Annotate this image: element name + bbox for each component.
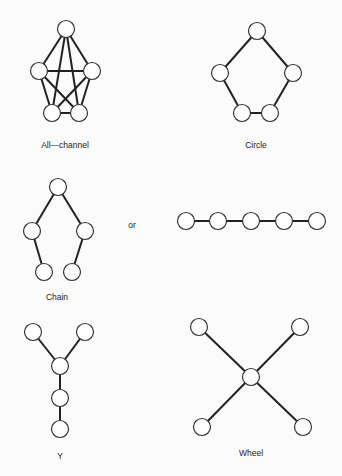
all-channel-label: All—channel — [41, 140, 89, 150]
chain-horizontal-network — [178, 213, 326, 230]
wheel-label: Wheel — [239, 448, 263, 458]
all-channel-network: All—channel — [31, 21, 101, 151]
diagram-canvas: All—channel Circle Chain or — [0, 0, 342, 476]
chain-label: Chain — [46, 292, 68, 302]
circle-network: Circle — [212, 23, 302, 151]
wheel-network: Wheel — [191, 319, 312, 459]
circle-label: Circle — [245, 140, 267, 150]
y-label: Y — [57, 451, 63, 461]
communication-networks-diagram: All—channel Circle Chain or — [0, 0, 342, 476]
or-label: or — [128, 220, 136, 230]
y-network: Y — [25, 324, 94, 462]
chain-network: Chain — [24, 179, 94, 303]
